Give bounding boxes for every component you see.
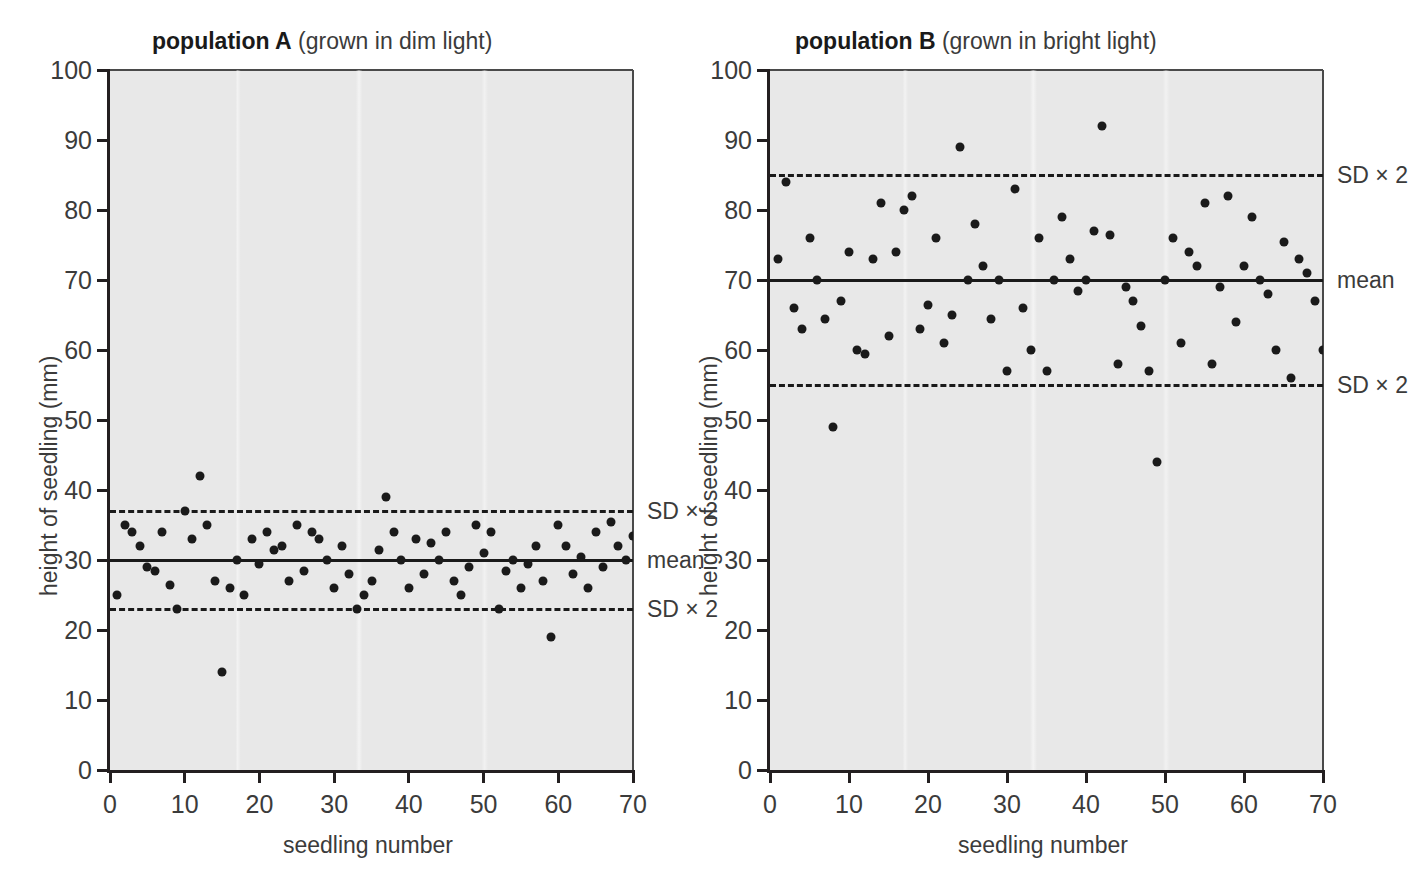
plot-inner-b: [770, 70, 1323, 770]
chart-title-a-bold: population A: [152, 28, 292, 54]
x-tick-label-0: 0: [763, 790, 777, 819]
data-point: [180, 507, 189, 516]
y-tick-90: [97, 139, 110, 142]
y-tick-90: [757, 139, 770, 142]
y-tick-label-70: 70: [724, 266, 752, 295]
y-tick-70: [757, 279, 770, 282]
x-tick-0: [769, 770, 772, 783]
data-point: [591, 528, 600, 537]
data-point: [892, 248, 901, 257]
data-point: [1192, 262, 1201, 271]
x-tick-0: [109, 770, 112, 783]
chart-title-b-bold: population B: [795, 28, 936, 54]
data-point: [845, 248, 854, 257]
data-point: [546, 633, 555, 642]
x-tick-60: [557, 770, 560, 783]
data-point: [1003, 367, 1012, 376]
data-point: [218, 668, 227, 677]
x-tick-20: [258, 770, 261, 783]
data-point: [1042, 367, 1051, 376]
y-tick-label-60: 60: [64, 336, 92, 365]
data-point: [1184, 248, 1193, 257]
y-tick-20: [97, 629, 110, 632]
reference-line-sd2-2: [110, 608, 633, 611]
data-point: [1058, 213, 1067, 222]
chart-title-b-rest: (grown in bright light): [936, 28, 1157, 54]
data-point: [389, 528, 398, 537]
data-point: [345, 570, 354, 579]
y-tick-10: [97, 699, 110, 702]
data-point: [813, 276, 822, 285]
x-tick-label-60: 60: [544, 790, 572, 819]
data-point: [285, 577, 294, 586]
y-tick-40: [97, 489, 110, 492]
data-point: [374, 545, 383, 554]
data-point: [1129, 297, 1138, 306]
reference-label-sd2-2: SD × 2: [1337, 372, 1408, 399]
plot-area-b: 0102030405060708090100010203040506070SD …: [767, 70, 1323, 773]
y-tick-label-10: 10: [724, 686, 752, 715]
reference-label-mean: mean: [1337, 267, 1395, 294]
data-point: [1319, 346, 1324, 355]
y-tick-10: [757, 699, 770, 702]
data-point: [494, 605, 503, 614]
data-point: [963, 276, 972, 285]
y-tick-label-80: 80: [64, 196, 92, 225]
data-point: [924, 300, 933, 309]
data-point: [955, 143, 964, 152]
data-point: [427, 538, 436, 547]
data-point: [442, 528, 451, 537]
y-tick-label-40: 40: [724, 476, 752, 505]
data-point: [203, 521, 212, 530]
data-point: [995, 276, 1004, 285]
data-point: [789, 304, 798, 313]
data-point: [210, 577, 219, 586]
reference-line-mean: [110, 559, 633, 562]
y-tick-label-20: 20: [64, 616, 92, 645]
data-point: [255, 559, 264, 568]
data-point: [1255, 276, 1264, 285]
x-tick-10: [848, 770, 851, 783]
data-point: [158, 528, 167, 537]
x-tick-40: [1085, 770, 1088, 783]
data-point: [300, 566, 309, 575]
data-point: [837, 297, 846, 306]
data-point: [404, 584, 413, 593]
y-tick-label-80: 80: [724, 196, 752, 225]
y-tick-30: [757, 559, 770, 562]
data-point: [412, 535, 421, 544]
x-tick-label-50: 50: [470, 790, 498, 819]
data-point: [614, 542, 623, 551]
y-tick-50: [757, 419, 770, 422]
data-point: [971, 220, 980, 229]
x-tick-20: [927, 770, 930, 783]
chart-title-a-rest: (grown in dim light): [292, 28, 493, 54]
data-point: [576, 552, 585, 561]
y-tick-100: [757, 69, 770, 72]
data-point: [860, 349, 869, 358]
chart-title-a: population A (grown in dim light): [152, 28, 492, 55]
data-point: [135, 542, 144, 551]
data-point: [1168, 234, 1177, 243]
x-tick-label-10: 10: [835, 790, 863, 819]
y-tick-label-0: 0: [738, 756, 752, 785]
data-point: [1240, 262, 1249, 271]
data-point: [821, 314, 830, 323]
data-point: [397, 556, 406, 565]
data-point: [501, 566, 510, 575]
reference-line-sd2-2: [770, 384, 1323, 387]
data-point: [165, 580, 174, 589]
data-point: [1279, 237, 1288, 246]
data-point: [1034, 234, 1043, 243]
data-point: [908, 192, 917, 201]
x-tick-label-10: 10: [171, 790, 199, 819]
data-point: [1232, 318, 1241, 327]
data-point: [524, 559, 533, 568]
data-point: [322, 556, 331, 565]
y-tick-label-50: 50: [724, 406, 752, 435]
chart-title-b: population B (grown in bright light): [795, 28, 1157, 55]
y-tick-label-30: 30: [64, 546, 92, 575]
x-tick-label-40: 40: [395, 790, 423, 819]
x-axis-title-b: seedling number: [958, 832, 1128, 859]
data-point: [1311, 297, 1320, 306]
